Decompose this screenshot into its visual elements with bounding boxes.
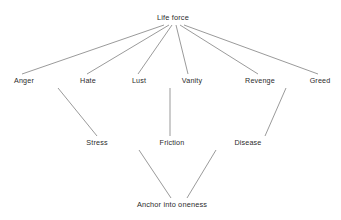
node-greed: Greed <box>310 77 331 84</box>
node-friction: Friction <box>160 139 185 146</box>
edge-disease-to-anchor <box>187 150 216 198</box>
node-anger: Anger <box>14 77 34 84</box>
edge-life_force-to-hate <box>87 25 169 74</box>
node-lust: Lust <box>132 77 146 84</box>
edge-layer <box>0 0 341 220</box>
node-vanity: Vanity <box>182 77 202 84</box>
edge-life_force-to-vanity <box>176 25 188 74</box>
node-revenge: Revenge <box>245 77 275 84</box>
edge-friction-to-anchor <box>139 150 171 198</box>
node-disease: Disease <box>234 139 261 146</box>
edge-life_force-to-greed <box>184 25 318 74</box>
node-anchor: Anchor into oneness <box>137 201 207 208</box>
node-hate: Hate <box>80 77 96 84</box>
node-life_force: Life force <box>157 14 189 21</box>
edge-hate-to-stress <box>58 88 97 136</box>
edge-greed-to-disease <box>265 88 286 136</box>
life-force-diagram: Life forceAngerHateLustVanityRevengeGree… <box>0 0 341 220</box>
node-stress: Stress <box>86 139 107 146</box>
edge-life_force-to-revenge <box>180 25 258 74</box>
